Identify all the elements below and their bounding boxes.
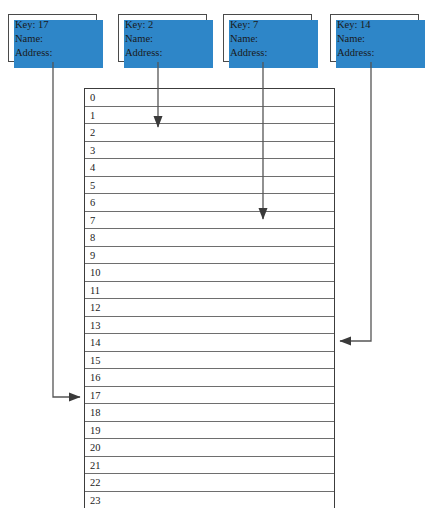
table-slot-14[interactable]: 14 — [85, 334, 334, 352]
record-address-label: Address: — [125, 46, 162, 60]
slot-index: 8 — [90, 230, 95, 245]
record-card-text: Key: 7 Name: Address: — [230, 18, 267, 60]
record-key-label: Key: 14 — [337, 18, 374, 32]
record-address-label: Address: — [15, 46, 52, 60]
record-key-label: Key: 2 — [125, 18, 162, 32]
record-name-label: Name: — [337, 32, 374, 46]
record-address-label: Address: — [230, 46, 267, 60]
table-slot-22[interactable]: 22 — [85, 474, 334, 492]
record-card-text: Key: 2 Name: Address: — [125, 18, 162, 60]
hash-table: 0 1 2 3 4 5 6 7 8 9 10 11 12 13 14 15 16… — [84, 88, 335, 508]
record-card-key-7[interactable]: Key: 7 Name: Address: — [223, 14, 312, 62]
connector-key-14-to-slot-14 — [340, 62, 371, 341]
table-slot-10[interactable]: 10 — [85, 264, 334, 282]
slot-index: 20 — [90, 440, 101, 455]
slot-index: 6 — [90, 195, 95, 210]
table-slot-3[interactable]: 3 — [85, 142, 334, 160]
slot-index: 12 — [90, 300, 101, 315]
slot-index: 17 — [90, 388, 101, 403]
table-slot-18[interactable]: 18 — [85, 404, 334, 422]
table-slot-4[interactable]: 4 — [85, 159, 334, 177]
slot-index: 18 — [90, 405, 101, 420]
record-address-label: Address: — [337, 46, 374, 60]
slot-index: 22 — [90, 475, 101, 490]
slot-index: 10 — [90, 265, 101, 280]
slot-index: 0 — [90, 90, 95, 105]
table-slot-6[interactable]: 6 — [85, 194, 334, 212]
slot-index: 1 — [90, 108, 95, 123]
table-slot-12[interactable]: 12 — [85, 299, 334, 317]
table-slot-16[interactable]: 16 — [85, 369, 334, 387]
slot-index: 15 — [90, 353, 101, 368]
table-slot-11[interactable]: 11 — [85, 282, 334, 300]
table-slot-1[interactable]: 1 — [85, 107, 334, 125]
table-slot-20[interactable]: 20 — [85, 439, 334, 457]
table-slot-7[interactable]: 7 — [85, 212, 334, 230]
slot-index: 5 — [90, 178, 95, 193]
slot-index: 2 — [90, 125, 95, 140]
record-name-label: Name: — [230, 32, 267, 46]
table-slot-2[interactable]: 2 — [85, 124, 334, 142]
table-slot-15[interactable]: 15 — [85, 352, 334, 370]
table-slot-9[interactable]: 9 — [85, 247, 334, 265]
record-key-label: Key: 7 — [230, 18, 267, 32]
record-key-label: Key: 17 — [15, 18, 52, 32]
record-name-label: Name: — [15, 32, 52, 46]
slot-index: 23 — [90, 493, 101, 508]
slot-index: 4 — [90, 160, 95, 175]
record-card-key-2[interactable]: Key: 2 Name: Address: — [118, 14, 207, 62]
table-slot-5[interactable]: 5 — [85, 177, 334, 195]
table-slot-19[interactable]: 19 — [85, 422, 334, 440]
record-card-text: Key: 14 Name: Address: — [337, 18, 374, 60]
slot-index: 14 — [90, 335, 101, 350]
connector-key-17-to-slot-17 — [53, 62, 80, 397]
slot-index: 19 — [90, 423, 101, 438]
table-slot-17[interactable]: 17 — [85, 387, 334, 405]
record-card-key-17[interactable]: Key: 17 Name: Address: — [8, 14, 97, 62]
slot-index: 7 — [90, 213, 95, 228]
record-card-text: Key: 17 Name: Address: — [15, 18, 52, 60]
record-name-label: Name: — [125, 32, 162, 46]
slot-index: 21 — [90, 458, 101, 473]
table-slot-23[interactable]: 23 — [85, 492, 334, 510]
slot-index: 11 — [90, 283, 100, 298]
table-slot-21[interactable]: 21 — [85, 457, 334, 475]
table-slot-8[interactable]: 8 — [85, 229, 334, 247]
table-slot-13[interactable]: 13 — [85, 317, 334, 335]
record-card-key-14[interactable]: Key: 14 Name: Address: — [330, 14, 419, 62]
slot-index: 13 — [90, 318, 101, 333]
slot-index: 3 — [90, 143, 95, 158]
table-slot-0[interactable]: 0 — [85, 89, 334, 107]
slot-index: 9 — [90, 248, 95, 263]
slot-index: 16 — [90, 370, 101, 385]
